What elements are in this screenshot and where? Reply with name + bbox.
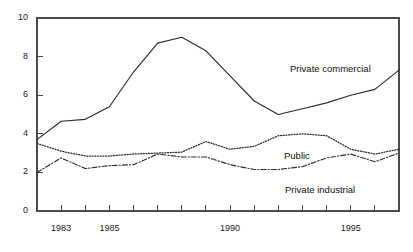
chart-plot-area <box>0 0 413 252</box>
y-axis-label-8: 8 <box>6 51 28 62</box>
series-line-private-industrial <box>37 153 399 172</box>
x-axis-label-1995: 1995 <box>334 223 368 234</box>
x-axis-label-1983: 1983 <box>44 223 78 234</box>
chart-series-lines <box>37 37 399 172</box>
y-axis-label-2: 2 <box>6 166 28 177</box>
annotation-private-industrial: Private industrial <box>285 184 355 195</box>
x-axis-label-1985: 1985 <box>92 223 126 234</box>
y-axis-label-0: 0 <box>6 205 28 216</box>
axis-frame <box>37 18 399 211</box>
series-line-public <box>37 134 399 156</box>
y-axis-label-10: 10 <box>6 12 28 23</box>
chart-axes <box>37 18 399 211</box>
annotation-private-commercial: Private commercial <box>290 63 371 74</box>
y-axis-label-6: 6 <box>6 89 28 100</box>
x-axis-label-1990: 1990 <box>213 223 247 234</box>
y-axis-label-4: 4 <box>6 128 28 139</box>
annotation-public: Public <box>284 150 310 161</box>
chart-figure: 0246810 1983198519901995 Private commerc… <box>0 0 413 252</box>
series-line-private-commercial <box>37 37 399 139</box>
